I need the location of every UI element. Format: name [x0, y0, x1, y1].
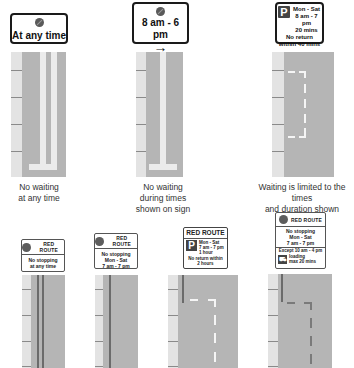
limited-waiting-sign: P Mon - Sat 8 am - 7 pm 20 mins No retur… — [275, 2, 324, 44]
end-mark — [149, 164, 177, 170]
no-waiting-at-any-time-sign: At any time — [10, 13, 68, 44]
road-single-yellow-line — [136, 52, 183, 177]
red-line — [281, 274, 283, 302]
red-route-no-stopping-any-time-sign: RED ROUTE No stopping at any time — [21, 239, 65, 272]
caption-no-waiting-any-time: No waiting at any time — [0, 182, 78, 204]
road-double-red-lines — [22, 275, 65, 368]
sign-text: At any time — [12, 29, 66, 42]
parking-icon: P — [186, 240, 197, 251]
road-single-red-line — [95, 275, 138, 368]
road-parking-bay — [272, 52, 334, 177]
no-waiting-times-sign: 8 am - 6 pm → — [132, 2, 189, 44]
red-line — [182, 275, 184, 303]
no-waiting-icon — [35, 18, 44, 27]
road-red-route-loading-bay — [268, 274, 332, 368]
end-mark — [29, 164, 57, 170]
red-route-roundel-icon — [95, 237, 104, 246]
road-double-yellow-lines — [11, 52, 66, 177]
yellow-line-inner — [40, 52, 46, 164]
loading-icon: ⛟ — [278, 255, 287, 264]
red-route-roundel-icon — [279, 215, 288, 224]
curb — [168, 275, 178, 368]
caption-no-waiting-times: No waiting during times shown on sign — [118, 182, 208, 215]
red-route-parking-sign: RED ROUTE P Mon - Sat 7 am - 7 pm 1 hour… — [183, 227, 228, 269]
curb — [136, 52, 146, 177]
no-waiting-icon — [156, 7, 165, 16]
curb — [95, 275, 103, 368]
curb — [268, 274, 278, 368]
curb — [11, 52, 22, 177]
red-route-loading-sign: RED ROUTE No stopping Mon - Sat 7 am - 7… — [275, 212, 326, 269]
sign-text: 8 am - 6 pm — [134, 17, 187, 41]
red-line — [109, 275, 111, 368]
yellow-line — [160, 52, 166, 170]
yellow-line-outer — [51, 52, 57, 170]
road-red-route-parking-bay — [168, 275, 238, 368]
curb — [22, 275, 31, 368]
red-route-no-stopping-times-sign: RED ROUTE No stopping Mon - Sat 7 am - 7… — [94, 233, 138, 269]
red-route-roundel-icon — [22, 243, 31, 252]
parking-icon: P — [278, 6, 290, 18]
red-line-outer — [42, 275, 44, 368]
caption-limited-waiting: Waiting is limited to the times and dura… — [250, 182, 354, 215]
red-line-inner — [37, 275, 39, 368]
curb — [272, 52, 284, 177]
